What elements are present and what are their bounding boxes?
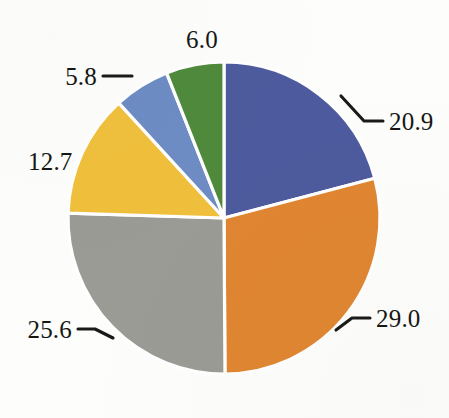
pie-label-slice-1: 20.9 <box>389 108 434 135</box>
pie-label-slice-3: 25.6 <box>27 316 72 343</box>
pie-label-slice-4: 12.7 <box>28 148 73 175</box>
pie-slices-group <box>68 62 380 374</box>
leader-line-slice-1 <box>341 96 383 121</box>
pie-chart-canvas: 20.9 29.0 25.6 12.7 5.8 6.0 <box>0 0 449 418</box>
pie-chart-figure: 20.9 29.0 25.6 12.7 5.8 6.0 <box>0 0 449 418</box>
leader-line-slice-3 <box>78 329 113 338</box>
pie-label-slice-2: 29.0 <box>376 305 421 332</box>
pie-label-slice-5: 5.8 <box>65 63 97 90</box>
pie-slice-3-gray[interactable] <box>68 213 225 374</box>
pie-label-slice-6: 6.0 <box>186 26 218 53</box>
